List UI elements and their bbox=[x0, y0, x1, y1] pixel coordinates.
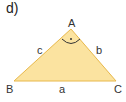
side-a-label: a bbox=[59, 84, 65, 95]
side-b-label: b bbox=[96, 45, 102, 56]
vertex-c-label: C bbox=[114, 84, 122, 95]
right-angle-dot-icon bbox=[70, 38, 72, 40]
vertex-a-label: A bbox=[68, 18, 75, 29]
side-c-label: c bbox=[37, 45, 43, 56]
vertex-b-label: B bbox=[6, 84, 13, 95]
